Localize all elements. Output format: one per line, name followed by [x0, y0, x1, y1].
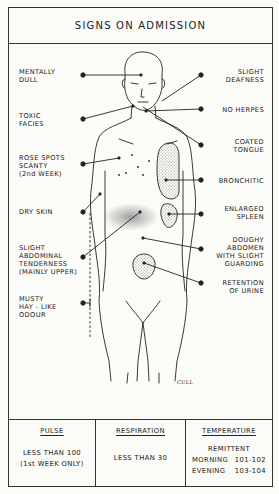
label-mentally-dull: MENTALLY DULL — [19, 68, 56, 84]
respiration-column: RESPIRATION LESS THAN 30 — [96, 420, 186, 486]
label-doughy-abdomen: DOUGHY ABDOMEN WITH SLIGHT GUARDING — [216, 236, 264, 268]
pulse-value: LESS THAN 100 — [9, 448, 95, 459]
diagram-frame: SIGNS ON ADMISSION — [8, 7, 273, 487]
evening-value: 103-104 — [235, 466, 266, 477]
temperature-title: TEMPERATURE — [202, 427, 256, 435]
pulse-note: (1st WEEK ONLY) — [9, 459, 95, 470]
morning-value: 101-102 — [235, 455, 266, 466]
vitals-table: PULSE LESS THAN 100 (1st WEEK ONLY) RESP… — [9, 419, 272, 486]
pulse-title: PULSE — [40, 427, 63, 435]
label-enlarged-spleen: ENLARGED SPLEEN — [224, 205, 264, 221]
figure-area: MENTALLY DULL TOXIC FACIES ROSE SPOTS SC… — [9, 43, 272, 419]
respiration-value: LESS THAN 30 — [96, 453, 185, 464]
morning-label: MORNING — [192, 455, 228, 466]
respiration-title: RESPIRATION — [116, 427, 165, 435]
label-bronchitic: BRONCHITIC — [219, 177, 264, 185]
label-rose-spots: ROSE SPOTS SCANTY (2nd WEEK) — [19, 154, 65, 178]
label-dry-skin: DRY SKIN — [19, 208, 53, 216]
label-no-herpes: NO HERPES — [222, 106, 264, 114]
evening-label: EVENING — [192, 466, 225, 477]
temperature-type: REMITTENT — [186, 444, 272, 455]
temperature-column: TEMPERATURE REMITTENT MORNING 101-102 EV… — [186, 420, 272, 486]
label-coated-tongue: COATED TONGUE — [233, 138, 264, 154]
label-slight-deafness: SLIGHT DEAFNESS — [226, 68, 264, 84]
label-abdominal-tenderness: SLIGHT ABDOMINAL TENDERNESS (MAINLY UPPE… — [19, 244, 77, 276]
pulse-column: PULSE LESS THAN 100 (1st WEEK ONLY) — [9, 420, 96, 486]
artist-signature: CULL — [177, 378, 193, 386]
label-musty-odour: MUSTY HAY - LIKE ODOUR — [19, 295, 57, 319]
label-toxic-facies: TOXIC FACIES — [19, 112, 44, 128]
label-retention-urine: RETENTION OF URINE — [222, 279, 264, 295]
